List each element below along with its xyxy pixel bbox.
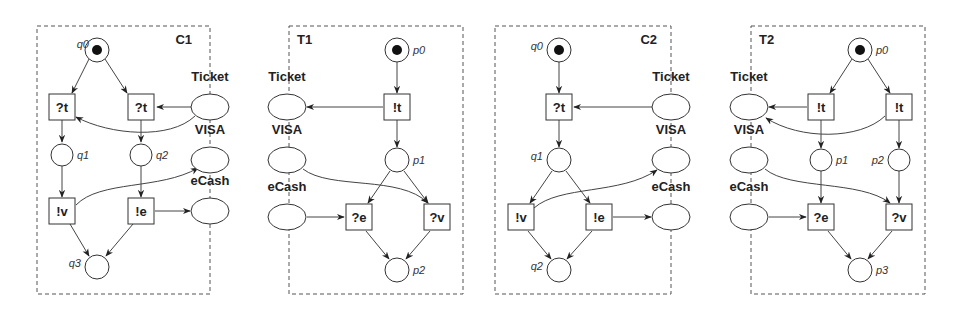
panel-t2: T2TicketVISAeCashp0p1p2p3!t!t?e?v bbox=[729, 26, 925, 294]
arc-arrow bbox=[368, 171, 390, 203]
arc-arrow bbox=[567, 231, 592, 259]
place-label: q2 bbox=[156, 149, 168, 161]
place-q0: q0 bbox=[77, 38, 109, 62]
petri-net-diagram: C1TicketVISAeCashq0q1q2q3?t?t!v!eT1Ticke… bbox=[0, 0, 965, 312]
channel-place-visa: VISA bbox=[652, 122, 690, 173]
transition-label: ?e bbox=[813, 210, 828, 225]
transition-label: !t bbox=[895, 100, 904, 115]
place-label: p2 bbox=[412, 264, 425, 276]
channel-label: eCash bbox=[190, 173, 229, 188]
channel-place-ticket: Ticket bbox=[191, 69, 229, 120]
component-frame bbox=[289, 26, 463, 294]
place-circle bbox=[848, 258, 872, 282]
token-icon bbox=[392, 45, 402, 55]
arc-arrow bbox=[303, 169, 428, 203]
arc-arrow bbox=[530, 171, 552, 203]
component-title: C2 bbox=[640, 32, 657, 47]
arc-arrow bbox=[534, 170, 657, 208]
channel-ellipse bbox=[191, 147, 229, 173]
channel-label: VISA bbox=[734, 122, 765, 137]
transition-t4: ?v bbox=[886, 204, 912, 230]
place-p1: p1 bbox=[385, 148, 425, 172]
panel-c1: C1TicketVISAeCashq0q1q2q3?t?t!v!e bbox=[37, 26, 230, 294]
place-p2: p2 bbox=[385, 258, 425, 282]
place-circle bbox=[888, 149, 910, 171]
place-q1: q1 bbox=[531, 148, 571, 172]
place-p1: p1 bbox=[810, 149, 848, 171]
arc-arrow bbox=[868, 231, 892, 259]
channel-label: Ticket bbox=[652, 69, 690, 84]
channel-ellipse bbox=[191, 198, 229, 224]
place-q2: q2 bbox=[531, 258, 571, 282]
panels: C1TicketVISAeCashq0q1q2q3?t?t!v!eT1Ticke… bbox=[37, 26, 925, 294]
transition-label: ?v bbox=[429, 210, 445, 225]
arc-arrow bbox=[868, 59, 890, 93]
channel-label: eCash bbox=[651, 179, 690, 194]
arc-arrow bbox=[366, 231, 389, 259]
arc-arrow bbox=[828, 231, 851, 259]
place-circle bbox=[85, 255, 109, 279]
transition-label: ?t bbox=[135, 100, 148, 115]
place-label: p3 bbox=[875, 264, 889, 276]
channel-label: VISA bbox=[656, 122, 687, 137]
channel-label: eCash bbox=[729, 179, 768, 194]
place-q3: q3 bbox=[69, 255, 109, 279]
component-title: C1 bbox=[175, 32, 192, 47]
arc-arrow bbox=[765, 169, 890, 203]
place-label: q1 bbox=[77, 149, 89, 161]
place-label: p1 bbox=[412, 154, 425, 166]
channel-label: Ticket bbox=[191, 69, 229, 84]
transition-label: ?v bbox=[891, 210, 907, 225]
component-title: T2 bbox=[759, 32, 774, 47]
place-p2: p2 bbox=[871, 149, 910, 171]
channel-place-ticket: Ticket bbox=[652, 69, 690, 120]
token-icon bbox=[92, 45, 102, 55]
place-label: q0 bbox=[531, 40, 544, 52]
transition-label: ?t bbox=[553, 100, 566, 115]
transition-t2: ?t bbox=[128, 94, 154, 120]
channel-ellipse bbox=[730, 204, 768, 230]
place-label: q0 bbox=[77, 38, 90, 50]
transition-t2: !v bbox=[508, 204, 534, 230]
place-q0: q0 bbox=[531, 38, 571, 62]
place-circle bbox=[810, 149, 832, 171]
channel-ellipse bbox=[730, 147, 768, 173]
channel-place-ticket: Ticket bbox=[730, 69, 768, 120]
channel-place-ecash: eCash bbox=[729, 179, 768, 230]
transition-t3: !v bbox=[49, 198, 75, 224]
channel-ellipse bbox=[268, 147, 306, 173]
transition-t2: ?e bbox=[346, 204, 372, 230]
transition-label: ?t bbox=[56, 100, 69, 115]
channel-label: VISA bbox=[195, 122, 226, 137]
place-label: p1 bbox=[835, 154, 848, 166]
channel-place-visa: VISA bbox=[268, 122, 306, 173]
arc-arrow bbox=[528, 231, 551, 259]
place-p0: p0 bbox=[385, 38, 426, 62]
channel-ellipse bbox=[652, 94, 690, 120]
place-p3: p3 bbox=[848, 258, 889, 282]
transition-label: !e bbox=[593, 210, 605, 225]
channel-ellipse bbox=[268, 204, 306, 230]
arc-arrow bbox=[830, 59, 852, 93]
channel-place-ecash: eCash bbox=[190, 173, 229, 224]
place-label: p0 bbox=[412, 44, 426, 56]
place-label: p2 bbox=[871, 154, 884, 166]
channel-ellipse bbox=[268, 94, 306, 120]
transition-label: !v bbox=[515, 210, 527, 225]
arc-arrow bbox=[70, 224, 89, 256]
transition-t2: !t bbox=[886, 94, 912, 120]
transition-label: !t bbox=[817, 100, 826, 115]
channel-ellipse bbox=[652, 204, 690, 230]
component-title: T1 bbox=[297, 32, 312, 47]
transition-t3: ?e bbox=[808, 204, 834, 230]
channel-place-visa: VISA bbox=[730, 122, 768, 173]
panel-c2: C2TicketVISAeCashq0q1q2?t!v!e bbox=[495, 26, 691, 294]
transition-t1: ?t bbox=[546, 94, 572, 120]
channel-label: Ticket bbox=[730, 69, 768, 84]
transition-label: !t bbox=[393, 100, 402, 115]
place-label: q1 bbox=[531, 150, 543, 162]
place-p0: p0 bbox=[848, 38, 889, 62]
place-q2: q2 bbox=[130, 144, 168, 166]
transition-t4: !e bbox=[128, 198, 154, 224]
transition-t1: !t bbox=[384, 94, 410, 120]
